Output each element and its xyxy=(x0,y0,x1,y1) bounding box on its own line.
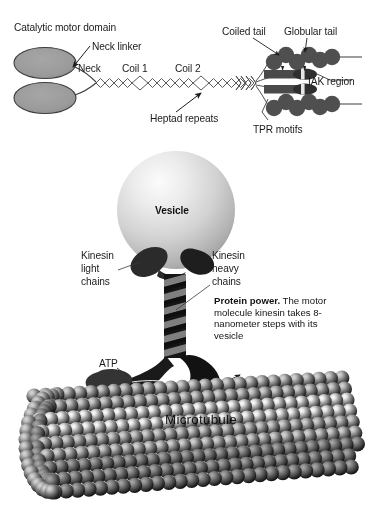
caption-protein-power: Protein power. The motor molecule kinesi… xyxy=(214,295,346,341)
label-kinesin-heavy-chains-line1: Kinesin xyxy=(212,250,245,262)
label-kinesin-light-chains-line2: light xyxy=(81,263,99,275)
microtubule xyxy=(19,370,366,499)
label-vesicle: Vesicle xyxy=(155,205,189,217)
motor-domain-lower xyxy=(14,83,76,114)
label-coiled-tail: Coiled tail xyxy=(222,26,266,38)
label-tpr-motifs: TPR motifs xyxy=(253,124,302,136)
label-neck: Neck xyxy=(78,63,101,75)
globular-tail-lower xyxy=(266,94,340,116)
label-atp: ATP xyxy=(99,358,118,370)
label-kinesin-light-chains-line1: Kinesin xyxy=(81,250,114,262)
caption-lead: Protein power. xyxy=(214,295,280,306)
heptad-repeats-coil xyxy=(236,76,256,90)
label-globular-tail: Globular tail xyxy=(284,26,337,38)
globular-tail-upper xyxy=(266,47,340,70)
figure-canvas: Catalytic motor domain Neck linker Neck … xyxy=(0,0,378,519)
motor-domain-upper xyxy=(14,48,76,79)
coiled-coil-chain xyxy=(96,76,254,90)
kinesin-stalk-helix xyxy=(164,274,186,358)
label-heptad-repeats: Heptad repeats xyxy=(150,113,218,125)
label-coil-2: Coil 2 xyxy=(175,63,200,75)
label-microtubule: Microtubule xyxy=(165,412,237,427)
tubulin-bead xyxy=(44,484,59,499)
label-catalytic-motor-domain: Catalytic motor domain xyxy=(14,22,116,34)
coiled-tail-leader xyxy=(253,38,279,55)
label-coil-1: Coil 1 xyxy=(122,63,147,75)
neck-linker-lower-path xyxy=(75,83,96,95)
heptad-repeats-arrow xyxy=(176,93,201,112)
label-neck-linker: Neck linker xyxy=(92,41,141,53)
label-iak-region: IAK region xyxy=(308,76,355,88)
label-kinesin-heavy-chains-line3: chains xyxy=(212,276,241,288)
label-kinesin-light-chains-line3: chains xyxy=(81,276,110,288)
label-kinesin-heavy-chains-line2: heavy xyxy=(212,263,239,275)
